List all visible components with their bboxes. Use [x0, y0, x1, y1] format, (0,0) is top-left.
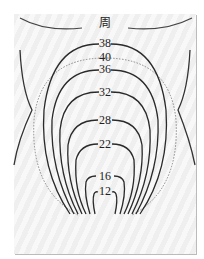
contour-36-weeks-right [111, 70, 158, 214]
contour-label-16: 16 [99, 170, 111, 182]
contour-label-32: 32 [99, 86, 111, 98]
contour-label-38: 38 [99, 37, 111, 49]
contour-12-weeks-right [112, 192, 117, 214]
contour-label-22: 22 [99, 138, 111, 150]
right-body-contour [178, 50, 195, 165]
week-unit-label: 周 [99, 17, 111, 29]
left-body-contour [14, 50, 32, 165]
contour-label-12: 12 [99, 185, 111, 197]
contour-12-weeks-left [93, 192, 98, 214]
contour-36-weeks-left [52, 70, 99, 214]
contour-label-28: 28 [99, 114, 111, 126]
right-rib-arc [128, 18, 192, 29]
contour-label-36: 36 [99, 63, 111, 75]
left-rib-arc [20, 18, 82, 29]
